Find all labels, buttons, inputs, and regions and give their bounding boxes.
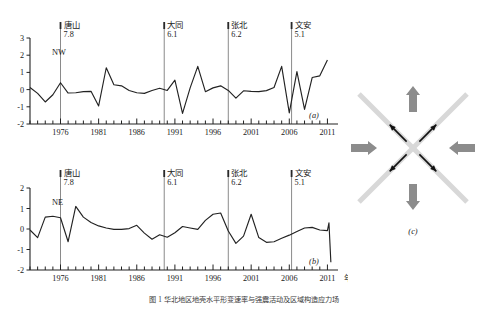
x-tick-label: 1991 [167, 274, 183, 283]
x-tick-label: 1996 [205, 274, 221, 283]
x-tick-label: 1991 [167, 128, 183, 137]
panel-a-timeseries-nw: 唐山7.8大同6.1张北6.2文安5.13210-1-2197619811986… [0, 0, 348, 150]
y-tick-label: 2 [20, 184, 24, 193]
event-name-3: 张北 [231, 20, 248, 30]
event-name-1: 唐山 [64, 20, 80, 30]
event-magnitude-1: 7.8 [64, 30, 74, 39]
x-tick-label: 2001 [243, 274, 259, 283]
x-tick-label: 1986 [129, 128, 145, 137]
y-tick-label: -1 [17, 103, 24, 112]
stress-field-diagram: (c) [338, 60, 488, 260]
compression-arrow-left [351, 141, 377, 155]
region-label: NW [52, 48, 66, 57]
event-magnitude-2: 6.1 [167, 178, 177, 187]
data-series-line [30, 60, 327, 113]
panel-b-timeseries-ne: 唐山7.8大同6.1张北6.2文安5.1210-1-21976198119861… [0, 148, 348, 296]
event-name-1: 唐山 [64, 168, 80, 178]
y-tick-label: -2 [17, 120, 24, 129]
x-tick-label: 2001 [243, 128, 259, 137]
y-tick-label: -1 [17, 246, 24, 255]
event-magnitude-2: 6.1 [167, 30, 177, 39]
extension-arrow-up [406, 86, 420, 112]
event-name-4: 文安 [295, 168, 311, 178]
y-tick-label: 3 [20, 34, 24, 43]
panel-b-plot: 唐山7.8大同6.1张北6.2文安5.1210-1-21976198119861… [0, 148, 348, 296]
x-tick-label: 1986 [129, 274, 145, 283]
panel-tag: (a) [309, 111, 319, 120]
panel-a-plot: 唐山7.8大同6.1张北6.2文安5.13210-1-2197619811986… [0, 0, 348, 150]
x-tick-label: 2006 [281, 128, 297, 137]
event-magnitude-3: 6.2 [231, 30, 241, 39]
event-name-3: 张北 [231, 168, 248, 178]
x-tick-label: 1996 [205, 128, 221, 137]
event-name-4: 文安 [295, 20, 311, 30]
panel-c-stress-diagram: (c) [338, 60, 488, 260]
region-label: NE [52, 198, 63, 207]
panel-tag: (c) [408, 227, 418, 236]
y-tick-label: 0 [20, 225, 24, 234]
x-tick-label: 2011 [319, 128, 335, 137]
x-tick-label: 2006 [281, 274, 297, 283]
x-tick-label: 2011 [319, 274, 335, 283]
event-magnitude-3: 6.2 [231, 178, 241, 187]
y-tick-label: 2 [20, 51, 24, 60]
x-axis-unit: 年 [344, 273, 348, 283]
event-magnitude-1: 7.8 [64, 178, 74, 187]
x-tick-label: 1976 [52, 128, 68, 137]
extension-arrow-down [406, 184, 420, 210]
data-series-line [30, 206, 331, 262]
panel-tag: (b) [309, 257, 319, 266]
compression-arrow-right [449, 141, 475, 155]
event-magnitude-4: 5.1 [295, 178, 305, 187]
event-name-2: 大同 [167, 168, 183, 178]
x-tick-label: 1981 [90, 274, 106, 283]
x-tick-label: 1981 [90, 128, 106, 137]
figure-caption: 图 1 华北地区地壳水平形变速率与强震活动及区域构造应力场 [0, 296, 488, 305]
event-name-2: 大同 [167, 20, 183, 30]
figure-root: 唐山7.8大同6.1张北6.2文安5.13210-1-2197619811986… [0, 0, 488, 313]
y-tick-label: 0 [20, 86, 24, 95]
event-magnitude-4: 5.1 [295, 30, 305, 39]
x-tick-label: 1976 [52, 274, 68, 283]
y-tick-label: -2 [17, 266, 24, 275]
y-tick-label: 1 [20, 68, 24, 77]
y-tick-label: 1 [20, 205, 24, 214]
